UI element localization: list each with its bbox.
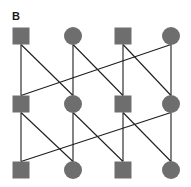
square-node-r3c1	[13, 162, 30, 179]
edge-r1c4-r2c1	[21, 45, 171, 96]
square-node-r2c1	[13, 96, 30, 113]
square-node-r1c3	[115, 28, 132, 45]
circle-node-r3c2	[64, 161, 82, 179]
square-node-r3c3	[115, 162, 132, 179]
circle-node-r1c4	[162, 27, 180, 45]
circle-node-r2c2	[64, 95, 82, 113]
edge-r2c2-r3c3	[73, 113, 123, 162]
circle-node-r1c2	[64, 27, 82, 45]
edge-r1c2-r2c3	[73, 45, 123, 96]
circle-node-r2c4	[162, 95, 180, 113]
circle-node-r3c4	[162, 161, 180, 179]
edges-layer	[21, 45, 171, 162]
network-diagram	[0, 0, 191, 187]
edge-r2c1-r3c2	[21, 113, 73, 162]
square-node-r1c1	[13, 28, 30, 45]
square-node-r2c3	[115, 96, 132, 113]
edge-r1c1-r2c2	[21, 45, 73, 96]
edge-r2c4-r3c1	[21, 113, 171, 162]
